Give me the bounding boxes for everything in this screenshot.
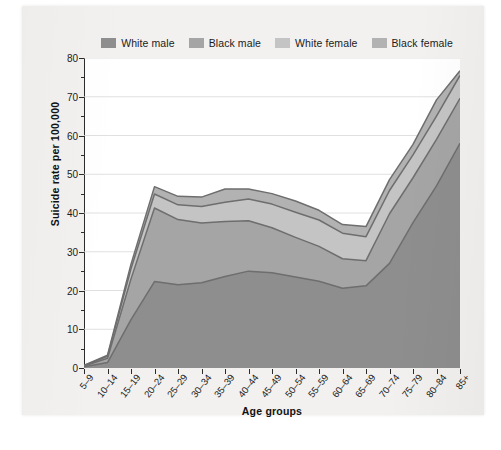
figure-panel: White male Black male White female Black… [22, 6, 484, 415]
x-tick-label: 65–69 [353, 372, 378, 400]
chart-legend: White male Black male White female Black… [82, 34, 472, 52]
legend-swatch-black-male [189, 38, 204, 48]
legend-label-white-male: White male [121, 37, 175, 49]
legend-item-black-female: Black female [372, 37, 453, 49]
legend-swatch-black-female [372, 38, 387, 48]
x-tick-label: 20–24 [141, 372, 166, 400]
y-tick-label: 40 [67, 208, 78, 219]
x-tick-label: 40–44 [235, 372, 260, 400]
legend-item-black-male: Black male [189, 37, 261, 49]
x-tick-label: 85+ [453, 372, 472, 391]
x-axis-label: Age groups [84, 405, 460, 417]
legend-item-white-male: White male [101, 37, 175, 49]
y-tick-label: 70 [67, 91, 78, 102]
x-tick-label: 80–84 [423, 372, 448, 400]
y-tick-label: 60 [67, 130, 78, 141]
y-tick-label: 50 [67, 169, 78, 180]
x-tick-label: 5–9 [77, 372, 95, 391]
x-tick-label: 45–49 [259, 372, 284, 400]
x-tick-label: 75–79 [400, 372, 425, 400]
x-tick-label: 55–59 [306, 372, 331, 400]
legend-label-black-female: Black female [392, 37, 453, 49]
plot-area [84, 58, 460, 368]
x-tick-label: 25–29 [165, 372, 190, 400]
x-tick-label: 50–54 [282, 372, 307, 400]
x-tick-label: 35–39 [212, 372, 237, 400]
y-tick-label: 10 [67, 324, 78, 335]
x-tick-label: 30–34 [188, 372, 213, 400]
y-tick-label: 0 [72, 363, 78, 374]
y-tick-label: 20 [67, 285, 78, 296]
x-tick-label: 15–19 [118, 372, 143, 400]
legend-label-white-female: White female [295, 37, 357, 49]
legend-item-white-female: White female [275, 37, 357, 49]
legend-label-black-male: Black male [209, 37, 261, 49]
y-tick-label: 30 [67, 246, 78, 257]
x-tick-label: 60–64 [329, 372, 354, 400]
x-tick-label: 10–14 [94, 372, 119, 400]
chart-page: White male Black male White female Black… [0, 0, 501, 450]
y-axis-label: Suicide rate per 100,000 [49, 69, 61, 259]
y-tick-label: 80 [67, 53, 78, 64]
area-chart-svg [84, 58, 460, 368]
legend-swatch-white-male [101, 38, 116, 48]
x-tick-label: 70–74 [376, 372, 401, 400]
legend-swatch-white-female [275, 38, 290, 48]
